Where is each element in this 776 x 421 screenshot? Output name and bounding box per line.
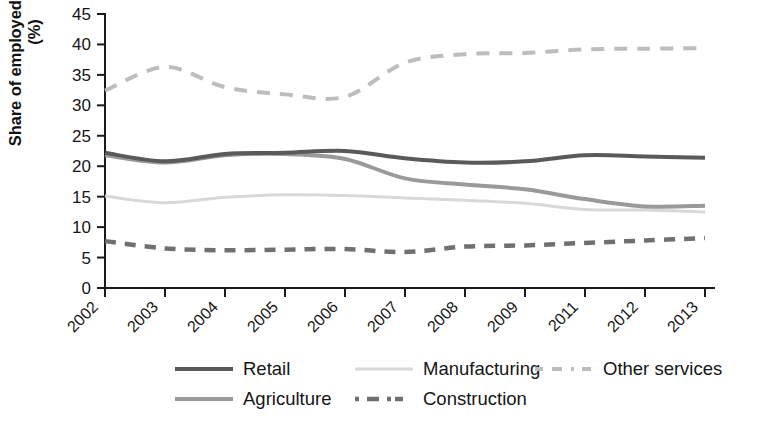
legend-label: Retail: [243, 358, 290, 379]
x-tick-label: 2005: [244, 298, 281, 335]
x-tick-label: 2013: [664, 298, 701, 335]
x-axis: 2002200320042005200620072008200920112012…: [64, 288, 715, 335]
y-tick-label: 0: [82, 279, 91, 298]
y-tick-label: 45: [72, 5, 91, 24]
legend-item-manufacturing[interactable]: Manufacturing: [355, 358, 540, 379]
x-tick-label: 2004: [184, 298, 221, 335]
x-tick-label: 2009: [484, 298, 521, 335]
y-tick-label: 35: [72, 66, 91, 85]
x-tick-label: 2002: [64, 298, 101, 335]
chart-figure: Share of employed workforce (%) 05101520…: [0, 0, 776, 421]
data-series-group: [105, 48, 705, 252]
legend-item-other-services[interactable]: Other services: [535, 358, 722, 379]
legend-item-agriculture[interactable]: Agriculture: [175, 388, 331, 409]
y-tick-label: 25: [72, 127, 91, 146]
legend-label: Construction: [423, 388, 527, 409]
x-tick-label: 2007: [364, 298, 401, 335]
legend-item-retail[interactable]: Retail: [175, 358, 290, 379]
y-tick-label: 30: [72, 96, 91, 115]
legend-item-construction[interactable]: Construction: [355, 388, 527, 409]
x-tick-label: 2012: [604, 298, 641, 335]
x-tick-label: 2008: [424, 298, 461, 335]
y-tick-label: 5: [82, 249, 91, 268]
legend-label: Manufacturing: [423, 358, 540, 379]
y-tick-label: 10: [72, 218, 91, 237]
y-tick-label: 40: [72, 35, 91, 54]
legend-label: Other services: [603, 358, 722, 379]
y-tick-label: 20: [72, 157, 91, 176]
x-tick-label: 2006: [304, 298, 341, 335]
x-tick-label: 2011: [545, 298, 581, 334]
y-axis: 051015202530354045: [72, 5, 105, 298]
chart-legend: RetailManufacturingOther servicesAgricul…: [175, 358, 722, 409]
x-tick-label: 2003: [124, 298, 161, 335]
y-tick-label: 15: [72, 188, 91, 207]
line-chart-plot: 051015202530354045 200220032004200520062…: [0, 0, 776, 421]
series-line-other-services: [105, 48, 705, 99]
legend-label: Agriculture: [243, 388, 331, 409]
series-line-construction: [105, 238, 705, 252]
